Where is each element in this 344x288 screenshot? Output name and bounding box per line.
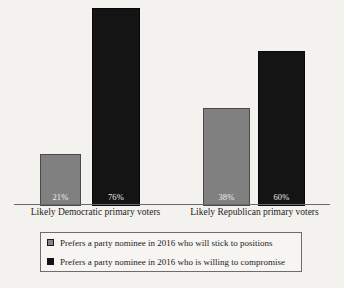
bar-value-label: 38% — [204, 192, 249, 202]
plot-area: 21% 76% 38% 60% — [0, 0, 344, 206]
x-axis-line — [14, 204, 330, 205]
legend-item-label: Prefers a party nominee in 2016 who will… — [60, 238, 272, 248]
category-label-republican: Likely Republican primary voters — [167, 207, 342, 217]
bar-democratic-stick: 21% — [40, 154, 81, 206]
bar-chart: 21% 76% 38% 60% Likely Democratic primar… — [0, 0, 344, 288]
bar-republican-compromise: 60% — [258, 51, 305, 206]
bar-democratic-compromise: 76% — [92, 8, 140, 206]
bar-republican-stick: 38% — [203, 108, 250, 206]
legend-item-label: Prefers a party nominee in 2016 who is w… — [60, 257, 285, 267]
category-label-democratic: Likely Democratic primary voters — [8, 207, 183, 217]
legend: Prefers a party nominee in 2016 who will… — [40, 232, 302, 272]
bar-value-label: 21% — [41, 192, 80, 202]
gray-square-icon — [47, 239, 54, 246]
legend-item-stick-to-positions: Prefers a party nominee in 2016 who will… — [41, 233, 301, 252]
bar-value-label: 76% — [93, 192, 139, 202]
x-axis-category-labels: Likely Democratic primary voters Likely … — [0, 207, 344, 225]
bar-value-label: 60% — [259, 192, 304, 202]
legend-item-willing-to-compromise: Prefers a party nominee in 2016 who is w… — [41, 252, 301, 271]
black-square-icon — [47, 258, 54, 265]
